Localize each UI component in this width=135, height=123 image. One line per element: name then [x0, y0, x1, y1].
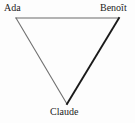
- triangle-diagram: Ada Benoît Claude: [0, 0, 135, 123]
- triangle-graph-canvas: [0, 0, 135, 123]
- edge-ada-claude: [16, 18, 67, 104]
- edge-benoit-claude: [67, 18, 119, 104]
- node-label-benoit: Benoît: [100, 3, 127, 13]
- node-label-ada: Ada: [4, 3, 21, 13]
- node-label-claude: Claude: [50, 107, 78, 117]
